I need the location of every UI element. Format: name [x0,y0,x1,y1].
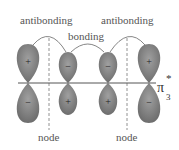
sign-top: + [146,56,152,67]
label-antibonding-right: antibonding [101,14,154,26]
label-node-left: node [38,131,60,143]
bonding-arc [71,44,104,52]
label-bonding: bonding [68,30,105,42]
orbital-subscript: 3 [166,92,171,102]
sign-bottom: − [146,97,152,108]
antibonding-arc-left [33,36,66,52]
pi3-star-orbital-diagram: antibonding antibonding bonding + − − + … [0,0,179,150]
label-node-right: node [116,131,138,143]
sign-bottom: − [25,97,31,108]
sign-bottom: + [65,96,71,107]
label-antibonding-left: antibonding [20,14,73,26]
orbital-superscript: * [166,72,172,84]
sign-top: − [105,61,111,72]
sign-bottom: + [105,96,111,107]
orbital-symbol: π [157,80,164,95]
sign-top: + [25,56,31,67]
sign-top: − [65,61,71,72]
